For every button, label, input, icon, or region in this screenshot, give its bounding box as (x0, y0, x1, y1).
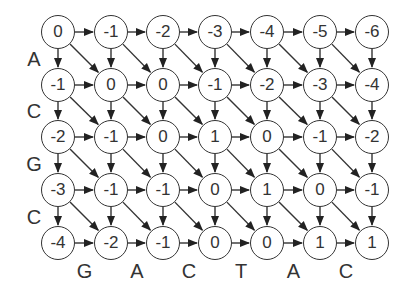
column-label: A (287, 260, 300, 283)
edge-arrow (175, 202, 202, 230)
grid-node: 0 (146, 68, 180, 102)
column-label: C (339, 260, 353, 283)
edge-arrow (227, 97, 254, 124)
edge-arrow (279, 149, 307, 177)
grid-node: 0 (198, 173, 232, 207)
edge-arrow (70, 97, 98, 124)
row-label: C (27, 100, 41, 123)
grid-node: 0 (94, 68, 128, 102)
grid-node: 0 (41, 15, 75, 49)
grid-node: -1 (94, 120, 128, 154)
grid-node: 1 (355, 226, 389, 260)
grid-node: 1 (250, 173, 284, 207)
edge-arrow (175, 97, 202, 124)
grid-node: -1 (94, 15, 128, 49)
edge-arrow (332, 44, 359, 72)
edge-arrow (123, 44, 150, 72)
grid-node: -5 (303, 15, 337, 49)
grid-node: 0 (250, 226, 284, 260)
grid-node: -1 (355, 173, 389, 207)
edge-arrow (123, 149, 150, 177)
column-label: T (235, 260, 247, 283)
edge-arrow (70, 202, 98, 230)
grid-node: -2 (250, 68, 284, 102)
grid-node: -4 (355, 68, 389, 102)
edge-arrow (123, 97, 150, 124)
grid-node: -4 (250, 15, 284, 49)
grid-node: -1 (303, 120, 337, 154)
edge-arrow (227, 149, 254, 177)
grid-node: -1 (41, 68, 75, 102)
row-label: A (27, 47, 40, 70)
row-label: G (26, 152, 42, 175)
grid-node: -3 (41, 173, 75, 207)
edge-arrow (70, 149, 98, 177)
edge-arrow (70, 44, 98, 72)
grid-node: 0 (250, 120, 284, 154)
grid-node: -1 (146, 226, 180, 260)
edge-arrow (332, 97, 359, 124)
edge-arrow (175, 149, 202, 177)
edge-arrow (279, 202, 307, 230)
edge-arrow (227, 202, 254, 230)
grid-node: 1 (198, 120, 232, 154)
grid-node: -4 (41, 226, 75, 260)
row-label: C (27, 205, 41, 228)
grid-node: -1 (94, 173, 128, 207)
edge-arrow (332, 149, 359, 177)
grid-node: -1 (146, 173, 180, 207)
grid-node: -3 (303, 68, 337, 102)
edge-arrow (332, 202, 359, 230)
grid-node: -1 (198, 68, 232, 102)
edge-arrow (279, 97, 307, 124)
grid-node: -2 (94, 226, 128, 260)
edge-arrow (123, 202, 150, 230)
grid-node: 0 (303, 173, 337, 207)
grid-node: 1 (303, 226, 337, 260)
grid-node: 0 (146, 120, 180, 154)
grid-node: -3 (198, 15, 232, 49)
grid-node: -6 (355, 15, 389, 49)
grid-node: -2 (146, 15, 180, 49)
edge-arrow (175, 44, 202, 72)
grid-node: -2 (355, 120, 389, 154)
column-label: A (130, 260, 143, 283)
edge-arrow (227, 44, 254, 72)
grid-node: -2 (41, 120, 75, 154)
edge-arrow (279, 44, 307, 72)
grid-node: 0 (198, 226, 232, 260)
column-label: G (77, 260, 93, 283)
column-label: C (182, 260, 196, 283)
